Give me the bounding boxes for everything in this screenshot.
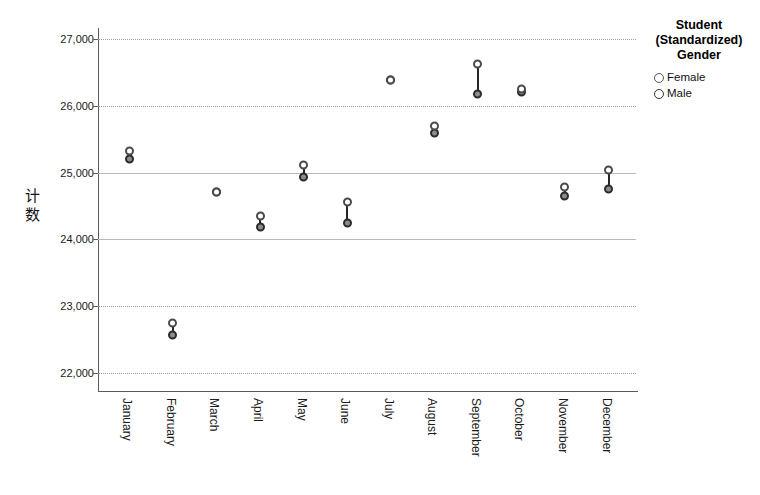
x-tick-label: November	[556, 398, 570, 453]
y-tick-label: 24,000	[36, 233, 94, 245]
y-axis-title-char-2: 数	[10, 205, 54, 224]
legend-item-label: Female	[667, 71, 705, 84]
x-tick-label: April	[251, 398, 265, 422]
y-tick-label: 22,000	[36, 367, 94, 379]
gridline	[98, 239, 636, 240]
data-point-male	[299, 173, 308, 182]
x-tick-label: May	[295, 398, 309, 421]
x-axis-line	[98, 391, 638, 392]
data-point-male	[604, 184, 613, 193]
y-tick-label: 26,000	[36, 100, 94, 112]
data-point-female	[256, 212, 265, 221]
legend-title: Student (Standardized) Gender	[640, 18, 758, 63]
legend-item-label: Male	[667, 87, 692, 100]
x-tick-label: January	[120, 398, 134, 441]
x-tick-label: September	[469, 398, 483, 457]
legend-title-line-2: (Standardized)	[640, 33, 758, 48]
x-tick-label: February	[164, 398, 178, 446]
legend: Student (Standardized) Gender FemaleMale	[640, 18, 758, 102]
gridline	[98, 373, 636, 374]
plot-area	[98, 28, 636, 390]
gridline	[98, 306, 636, 307]
x-tick-label: March	[207, 398, 221, 431]
gridline	[98, 173, 636, 174]
data-point-female	[560, 183, 569, 192]
gridline	[98, 106, 636, 107]
dropline-chart: 计 数 22,00023,00024,00025,00026,00027,000…	[0, 0, 760, 495]
y-tick-label: 23,000	[36, 300, 94, 312]
x-tick-label: June	[338, 398, 352, 424]
data-point-female	[212, 187, 221, 196]
x-tick-label: July	[382, 398, 396, 419]
circle-icon	[654, 89, 664, 99]
circle-icon	[654, 73, 664, 83]
legend-title-line-3: Gender	[640, 48, 758, 63]
y-tick-label: 25,000	[36, 167, 94, 179]
legend-title-line-1: Student	[640, 18, 758, 33]
data-point-male	[168, 330, 177, 339]
data-point-male	[256, 223, 265, 232]
data-point-male	[473, 90, 482, 99]
data-point-male	[125, 155, 134, 164]
data-point-female	[430, 121, 439, 130]
data-point-male	[343, 219, 352, 228]
x-tick-label: October	[512, 398, 526, 441]
data-point-female	[125, 146, 134, 155]
data-point-female	[168, 318, 177, 327]
data-point-female	[473, 59, 482, 68]
x-tick-label: December	[600, 398, 614, 453]
gridline	[98, 39, 636, 40]
data-point-female	[299, 160, 308, 169]
legend-item-female[interactable]: Female	[654, 70, 758, 85]
y-axis-title-char-1: 计	[10, 186, 54, 205]
data-point-female	[343, 197, 352, 206]
data-point-female	[517, 85, 526, 94]
x-tick-label: August	[425, 398, 439, 435]
legend-item-male[interactable]: Male	[654, 86, 758, 101]
legend-items: FemaleMale	[640, 70, 758, 101]
data-point-male	[560, 191, 569, 200]
y-axis-title: 计 数	[10, 186, 54, 224]
data-point-female	[386, 76, 395, 85]
data-point-female	[604, 165, 613, 174]
y-tick-label: 27,000	[36, 33, 94, 45]
